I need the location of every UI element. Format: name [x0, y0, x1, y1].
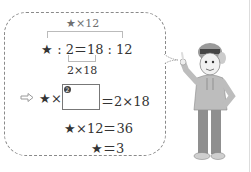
step2-equation: ★×12＝36	[64, 118, 133, 137]
top-bracket	[47, 31, 123, 38]
step3-equation: ★＝3	[91, 138, 124, 157]
top-label: ★×12	[66, 17, 99, 30]
step1-suffix: ＝2×18	[101, 91, 150, 110]
speech-bubble-tail	[164, 54, 178, 64]
bottom-bracket	[68, 55, 96, 62]
page-edge-line	[249, 0, 250, 172]
step1-prefix: ★×	[39, 91, 62, 106]
hollow-right-arrow-icon	[20, 93, 34, 102]
boy-character-icon	[180, 40, 240, 162]
bottom-label: 2×18	[67, 64, 97, 77]
blank-number-badge: 2	[64, 86, 71, 93]
answer-blank-box[interactable]: 2	[62, 84, 100, 110]
